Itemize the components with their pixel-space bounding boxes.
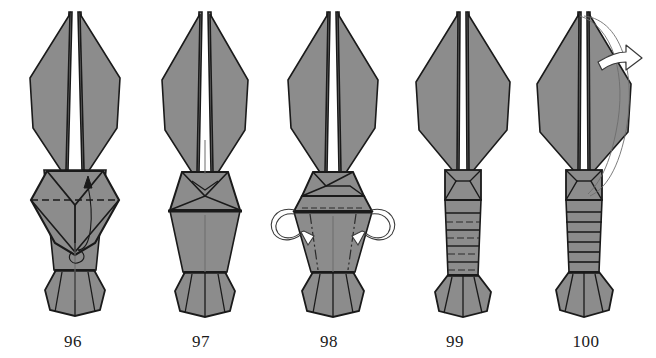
figure-step-100 (512, 0, 656, 330)
step-caption-96: 96 (43, 332, 103, 352)
body-shape-98 (288, 12, 378, 317)
figure-step-96 (0, 0, 150, 330)
step-caption-99: 99 (425, 332, 485, 352)
diagram-canvas: 96 97 (0, 0, 656, 358)
body-shape-96 (30, 12, 120, 316)
step-caption-98: 98 (299, 332, 359, 352)
body-shape-97 (162, 12, 248, 317)
step-caption-97: 97 (171, 332, 231, 352)
body-shape-99 (416, 12, 510, 317)
step-caption-100: 100 (556, 332, 616, 352)
